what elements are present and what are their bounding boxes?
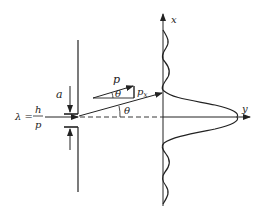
momentum-triangle: θ p px: [93, 73, 147, 99]
lambda-denominator: p: [35, 119, 42, 130]
lambda-numerator: h: [35, 104, 41, 115]
diffraction-diagram: a λ = h p θ θ p px x y: [0, 0, 259, 222]
triangle-angle-label: θ: [115, 88, 121, 99]
momentum-label: p: [113, 73, 120, 86]
lambda-lhs: λ =: [14, 111, 33, 122]
wavelength-formula: λ = h p: [14, 104, 43, 130]
slit-width-label: a: [56, 88, 63, 101]
triangle-angle-arc: [112, 93, 113, 98]
slit-lower-wall: [64, 127, 78, 192]
ray-angle-arc: [119, 106, 120, 117]
momentum-x-label: px: [137, 86, 147, 99]
slit-upper-wall: [64, 40, 78, 114]
y-axis-label: y: [241, 103, 248, 114]
ray-angle-label: θ: [124, 105, 130, 116]
x-axis-label: x: [171, 14, 177, 25]
